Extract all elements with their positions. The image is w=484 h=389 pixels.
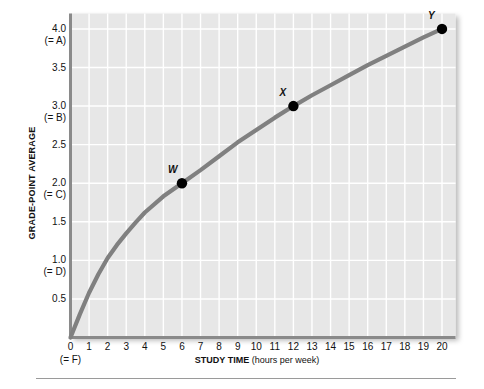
x-tick-value: 17: [381, 341, 392, 352]
x-axis-title-rest: (hours per week): [249, 355, 319, 365]
x-tick-value: 10: [251, 341, 262, 352]
x-axis-title-bold: STUDY TIME: [195, 355, 249, 365]
x-tick-value: 13: [306, 341, 317, 352]
x-tick-value: 5: [161, 341, 167, 352]
x-tick-value: 3: [123, 341, 129, 352]
x-tick-value: 9: [235, 341, 241, 352]
x-tick-value: 19: [418, 341, 429, 352]
chart-figure: GRADE-POINT AVERAGE 4.0(= A)3.53.0(= B)2…: [0, 0, 484, 389]
x-tick-label: 20: [430, 341, 454, 352]
x-tick-value: 2: [105, 341, 111, 352]
data-point-label-x: X: [279, 87, 286, 98]
x-tick-value: 11: [270, 341, 280, 352]
x-tick-value: 18: [399, 341, 410, 352]
x-tick-value: 16: [362, 341, 373, 352]
x-tick-value: 14: [325, 341, 336, 352]
x-tick-value: 12: [288, 341, 299, 352]
x-tick-value: 8: [216, 341, 222, 352]
x-axis-title: STUDY TIME (hours per week): [70, 355, 444, 365]
data-point-label-w: W: [168, 164, 177, 175]
x-tick-value: 7: [198, 341, 204, 352]
bottom-divider: [36, 378, 456, 379]
x-tick-value: 1: [86, 341, 92, 352]
x-tick-value: 0: [68, 341, 74, 352]
x-axis-tick-labels: 0(= F)1234567891011121314151617181920: [0, 0, 484, 389]
x-tick-value: 15: [344, 341, 355, 352]
x-tick-value: 6: [179, 341, 185, 352]
x-tick-value: 20: [436, 341, 447, 352]
data-point-label-y: Y: [428, 10, 435, 21]
x-tick-value: 4: [142, 341, 148, 352]
